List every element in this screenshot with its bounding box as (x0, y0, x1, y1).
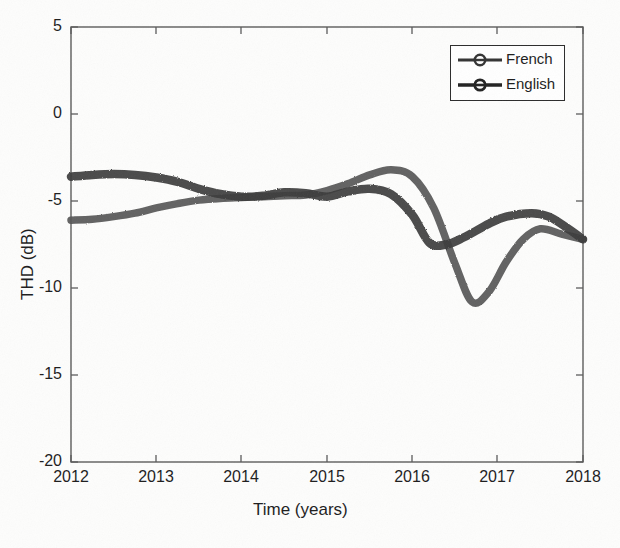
y-tick-label: -15 (22, 365, 62, 383)
x-tick-label: 2012 (45, 468, 97, 486)
x-tick-label: 2017 (471, 468, 523, 486)
x-tick-label: 2015 (301, 468, 353, 486)
legend-label: French (506, 50, 553, 67)
x-tick-label: 2016 (386, 468, 438, 486)
y-tick-label: 0 (26, 104, 62, 122)
x-axis-title: Time (years) (253, 500, 348, 520)
y-axis-title: THD (dB) (18, 228, 38, 300)
legend: French English (450, 45, 565, 101)
chart-figure: 5 0 -5 -10 -15 -20 2012 2013 2014 2015 2… (0, 0, 620, 548)
legend-item-english[interactable]: English (456, 73, 562, 97)
line-circle-marker-icon (456, 48, 504, 72)
x-tick-label: 2014 (215, 468, 267, 486)
x-tick-label: 2013 (130, 468, 182, 486)
data-series-layer (71, 170, 583, 304)
series-line-french (71, 170, 583, 304)
y-tick-label: 5 (26, 17, 62, 35)
line-circle-marker-icon (456, 73, 504, 97)
legend-item-french[interactable]: French (456, 48, 562, 72)
x-tick-label: 2018 (557, 468, 609, 486)
y-tick-label: -5 (26, 191, 62, 209)
legend-label: English (506, 75, 555, 92)
